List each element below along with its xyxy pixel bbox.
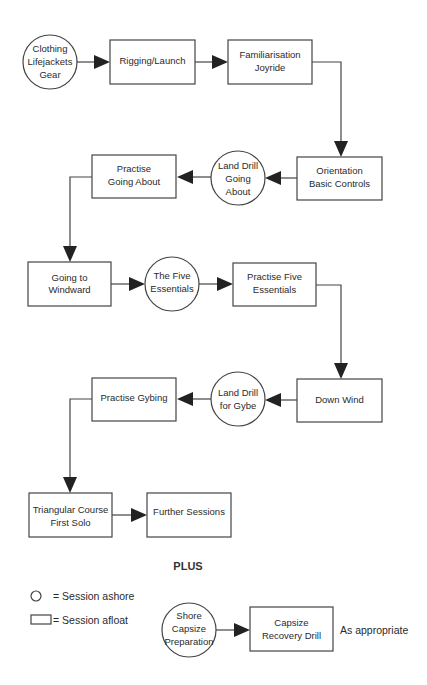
node-shore-capsize-preparation: Shore Capsize Preparation: [162, 603, 216, 657]
arrow-left-icon: [265, 171, 281, 185]
node-clothing: Clothing Lifejackets Gear: [23, 35, 77, 89]
node-label: Practise Gybing: [100, 392, 167, 403]
legend: = Session ashore = Session afloat: [31, 590, 135, 626]
legend-circle-icon: [31, 591, 41, 601]
node-label: Recovery Drill: [262, 630, 321, 641]
arrow-left-icon: [265, 393, 281, 407]
node-down-wind: Down Wind: [297, 379, 382, 422]
node-label: First Solo: [50, 517, 90, 528]
plus-heading: PLUS: [173, 560, 202, 572]
arrow-down-icon: [334, 363, 348, 379]
arrow-right-icon: [131, 508, 147, 522]
node-label: Rigging/Launch: [119, 55, 185, 66]
node-label: Going to: [52, 272, 88, 283]
session-afloat-rect: [250, 607, 333, 651]
node-label: Practise: [117, 163, 151, 174]
node-further-sessions: Further Sessions: [147, 493, 231, 537]
arrow-right-icon: [129, 277, 145, 291]
node-practise-gybing: Practise Gybing: [92, 378, 176, 421]
node-label: Land Drill: [218, 387, 258, 398]
node-label: About: [226, 186, 251, 197]
arrow-right-icon: [217, 277, 233, 291]
node-five-essentials: The Five Essentials: [145, 257, 199, 311]
node-orientation: Orientation Basic Controls: [297, 157, 382, 200]
legend-afloat-label: = Session afloat: [53, 614, 128, 626]
arrow-right-icon: [234, 623, 250, 637]
node-familiarisation: Familiarisation Joyride: [228, 40, 312, 84]
node-label: Shore: [176, 610, 201, 621]
node-practise-five-essentials: Practise Five Essentials: [233, 263, 316, 306]
arrow-down-icon: [63, 477, 77, 493]
connector-practisefive-downwind: [316, 285, 341, 367]
node-practise-going-about: Practise Going About: [92, 155, 176, 198]
node-label: The Five: [154, 270, 191, 281]
legend-ashore-label: = Session ashore: [53, 590, 135, 602]
connector-gybing-triangular: [70, 399, 92, 481]
node-triangular-course: Triangular Course First Solo: [29, 493, 112, 537]
node-label: Gear: [39, 69, 60, 80]
node-label: Land Drill: [218, 160, 258, 171]
node-label: Preparation: [164, 636, 213, 647]
arrow-right-icon: [94, 55, 110, 69]
node-label: Windward: [48, 284, 90, 295]
node-label: Down Wind: [315, 394, 364, 405]
session-ashore-circle: [211, 372, 265, 426]
node-label: Triangular Course: [33, 504, 109, 515]
arrow-down-icon: [334, 141, 348, 157]
legend-rect-icon: [31, 615, 51, 624]
node-label: Basic Controls: [309, 178, 370, 189]
connectors: [63, 55, 348, 637]
node-going-to-windward: Going to Windward: [28, 262, 111, 306]
node-land-drill-going-about: Land Drill Going About: [211, 151, 265, 205]
session-afloat-rect: [29, 493, 112, 537]
arrow-left-icon: [177, 170, 193, 184]
node-label: Practise Five: [247, 271, 302, 282]
node-label: Going About: [108, 176, 161, 187]
node-label: Capsize: [274, 617, 308, 628]
capsize-note: As appropriate: [340, 624, 408, 636]
arrow-left-icon: [177, 392, 193, 406]
node-label: for Gybe: [220, 400, 256, 411]
node-label: Orientation: [316, 165, 362, 176]
node-label: Going: [225, 173, 250, 184]
node-label: Joyride: [255, 62, 286, 73]
node-label: Clothing: [33, 43, 68, 54]
connector-practise-windward: [70, 177, 92, 250]
node-label: Capsize: [172, 623, 206, 634]
node-label: Lifejackets: [28, 56, 73, 67]
node-land-drill-gybe: Land Drill for Gybe: [211, 372, 265, 426]
node-label: Familiarisation: [239, 49, 300, 60]
node-label: Further Sessions: [153, 506, 225, 517]
node-rigging: Rigging/Launch: [110, 40, 195, 84]
connector-familiarisation-orientation: [312, 62, 341, 145]
arrow-down-icon: [63, 246, 77, 262]
arrow-right-icon: [212, 55, 228, 69]
node-label: Essentials: [253, 284, 297, 295]
node-capsize-recovery-drill: Capsize Recovery Drill: [250, 607, 333, 651]
node-label: Essentials: [150, 283, 194, 294]
sailing-course-flowchart: Clothing Lifejackets Gear Rigging/Launch…: [0, 0, 427, 685]
